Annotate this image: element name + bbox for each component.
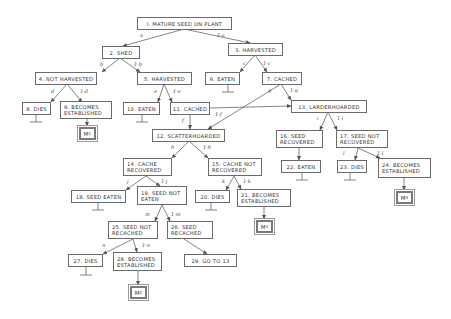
node-10-eaten: 10. EATEN: [123, 102, 160, 115]
node-label: I. MATURE SEED ON PLANT: [147, 21, 223, 27]
edge-label-1-k: 1-k: [243, 178, 251, 184]
edge-label-1-c: 1-c: [263, 60, 271, 66]
node-4-not-harvested: 4. NOT HARVESTED: [35, 72, 97, 85]
outcome-subscript: 4: [406, 195, 409, 200]
node-label: 10. EATEN: [127, 106, 156, 112]
node-17-seed-not-recovered: 17. SEED NOTRECOVERED: [336, 130, 388, 148]
node-3-harvested: 3. HARVESTED: [228, 43, 283, 56]
edge-label-m: m: [145, 211, 150, 217]
node-label-line2: ESTABLISHED: [241, 198, 287, 204]
node-11-cached: 11. CACHED: [170, 102, 210, 115]
node-23-dies: 23. DIES: [337, 160, 367, 173]
node-label: 29. GO TO 13: [191, 258, 229, 264]
node-label: 7. CACHED: [267, 76, 298, 82]
node-label: 22. EATEN: [287, 164, 316, 170]
node-26-seed-recached: 26. SEEDRECACHED: [167, 221, 213, 239]
node-14-cache-recovered: 14. CACHERECOVERED: [123, 158, 172, 176]
node-12-scatterhoarded: 12. SCATTERHOARDED: [152, 129, 225, 142]
node-label: 6. EATEN: [210, 76, 235, 82]
edge-label-k: k: [222, 178, 225, 184]
edge-label-c: c: [243, 60, 246, 66]
edge-label-l: l: [343, 150, 345, 156]
edge-label-f: f: [182, 117, 184, 123]
edge-label-1-i: 1-i: [337, 115, 343, 121]
node-22-eaten: 22. EATEN: [281, 160, 321, 173]
node-19-seed-not-eaten: 19. SEED NOTEATEN: [137, 186, 187, 205]
edge-label-1-f: 1-f: [215, 111, 222, 117]
node-8-dies: 8. DIES: [22, 102, 51, 115]
node-label: 5. HARVESTED: [144, 76, 185, 82]
node-label: 4. NOT HARVESTED: [39, 76, 94, 82]
node-15-cache-not-recovered: 15. CACHE NOTRECOVERED: [208, 158, 262, 176]
edge-label-1-a: 1-a: [217, 32, 225, 38]
edge-label-1-e: 1-e: [173, 88, 181, 94]
node-13-larderhoarded: 13. LARDERHOARDED: [291, 100, 367, 113]
node-label-line2: RECACHED: [112, 230, 154, 236]
outcome-subscript: 3: [266, 224, 269, 229]
outcome-subscript: 2: [140, 290, 143, 295]
node-label-line2: ESTABLISHED: [382, 168, 427, 174]
edge-label-1-b: 1-b: [134, 61, 142, 67]
node-9-becomes-established: 9. BECOMESESTABLISHED: [60, 101, 112, 119]
edge-label-a: a: [140, 32, 143, 38]
node-label-line2: RECOVERED: [212, 167, 258, 173]
node-label-line2: RECOVERED: [280, 139, 319, 145]
node-label-line2: RECACHED: [171, 230, 209, 236]
node-label: 23. DIES: [340, 164, 364, 170]
node-label-line2: RECOVERED: [127, 167, 168, 173]
edge-label-1-m: 1-m: [171, 211, 181, 217]
node-28-becomes-established: 28. BECOMESESTABLISHED: [113, 252, 162, 271]
node-label: 27. DIES: [74, 258, 98, 264]
node-label: 13. LARDERHOARDED: [298, 104, 360, 110]
edge-label-1-n: 1-n: [142, 242, 150, 248]
node-29-go-to-13: 29. GO TO 13: [184, 254, 237, 267]
edge-label-g: g: [268, 87, 271, 93]
node-24-becomes-established: 24. BECOMESESTABLISHED: [378, 158, 431, 178]
node-label-line2: RECOVERED: [340, 139, 384, 145]
outcome-m4: M4: [396, 191, 413, 204]
outcome-m1: M1: [79, 127, 96, 140]
node-label-line2: ESTABLISHED: [117, 262, 158, 268]
edge-label-d: d: [51, 88, 54, 94]
edge-label-j: j: [127, 178, 129, 184]
node-20-dies: 20. DIES: [195, 190, 230, 203]
edge-label-1-h: 1-h: [203, 144, 211, 150]
edge-label-e: e: [154, 88, 157, 94]
edge-label-1-d: 1-d: [80, 88, 88, 94]
edge-label-n: n: [102, 242, 105, 248]
edge-label-1-g: 1-g: [290, 87, 298, 93]
node-18-seed-eaten: 18. SEED EATEN: [71, 190, 126, 203]
node-6-eaten: 6. EATEN: [205, 72, 240, 85]
node-5-harvested: 5. HARVESTED: [137, 72, 192, 85]
node-label: 11. CACHED: [173, 106, 207, 112]
outcome-m2: M2: [130, 286, 147, 299]
node-label: 8. DIES: [26, 106, 46, 112]
node-25-seed-not-recached: 25. SEED NOTRECACHED: [108, 221, 158, 239]
node-label-line2: EATEN: [141, 196, 183, 202]
node-7-cached: 7. CACHED: [262, 72, 302, 85]
outcome-subscript: 1: [89, 131, 92, 136]
node-27-dies: 27. DIES: [68, 254, 103, 267]
node-label: 18. SEED EATEN: [76, 194, 122, 200]
node-label: 12. SCATTERHOARDED: [157, 133, 221, 139]
node-2-shed: 2. SHED: [102, 46, 140, 59]
node-1-mature-seed-on-plant: I. MATURE SEED ON PLANT: [137, 17, 232, 30]
edge-label-1-l: 1-l: [377, 150, 383, 156]
edge-label-h: h: [171, 144, 174, 150]
edge-label-i: i: [317, 115, 319, 121]
node-label-line2: ESTABLISHED: [64, 110, 108, 116]
node-label: 3. HARVESTED: [235, 47, 276, 53]
edge-label-b: b: [100, 61, 103, 67]
outcome-m3: M3: [256, 220, 273, 233]
node-label: 20. DIES: [201, 194, 225, 200]
edge-label-1-j: 1-j: [161, 178, 167, 184]
node-21-becomes-established: 21. BECOMESESTABLISHED: [237, 189, 291, 207]
node-16-seed-recovered: 16. SEEDRECOVERED: [276, 130, 323, 148]
node-label: 2. SHED: [110, 50, 133, 56]
